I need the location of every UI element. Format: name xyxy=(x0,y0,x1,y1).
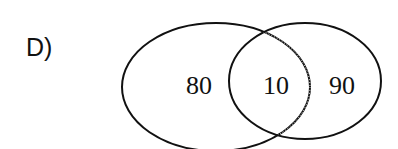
intersection-value: 10 xyxy=(263,71,289,100)
right-set-ellipse xyxy=(229,23,381,139)
left-only-value: 80 xyxy=(186,71,212,100)
right-only-value: 90 xyxy=(329,71,355,100)
venn-diagram: 80 10 90 xyxy=(0,0,398,149)
